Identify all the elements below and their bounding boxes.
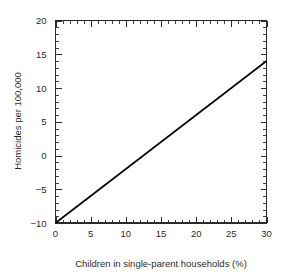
chart-figure: 051015202530 −10−505101520 Children in s… bbox=[0, 0, 284, 275]
y-tick-label: 5 bbox=[41, 116, 46, 127]
x-tick-label: 0 bbox=[53, 228, 58, 239]
x-tick-label: 20 bbox=[191, 228, 202, 239]
chart-background bbox=[0, 0, 284, 275]
x-tick-label: 30 bbox=[261, 228, 272, 239]
x-tick-label: 10 bbox=[121, 228, 132, 239]
x-axis-title: Children in single-parent households (%) bbox=[75, 258, 247, 269]
y-tick-label: 10 bbox=[36, 83, 47, 94]
y-tick-label: 0 bbox=[41, 150, 46, 161]
line-chart: 051015202530 −10−505101520 Children in s… bbox=[0, 0, 284, 275]
y-tick-label: −5 bbox=[36, 184, 47, 195]
y-tick-label: −10 bbox=[30, 218, 46, 229]
x-tick-label: 15 bbox=[156, 228, 167, 239]
y-tick-label: 15 bbox=[36, 49, 47, 60]
y-tick-label: 20 bbox=[36, 15, 47, 26]
x-tick-label: 25 bbox=[226, 228, 237, 239]
x-tick-label: 5 bbox=[88, 228, 93, 239]
y-axis-title: Homicides per 100,000 bbox=[12, 72, 23, 170]
